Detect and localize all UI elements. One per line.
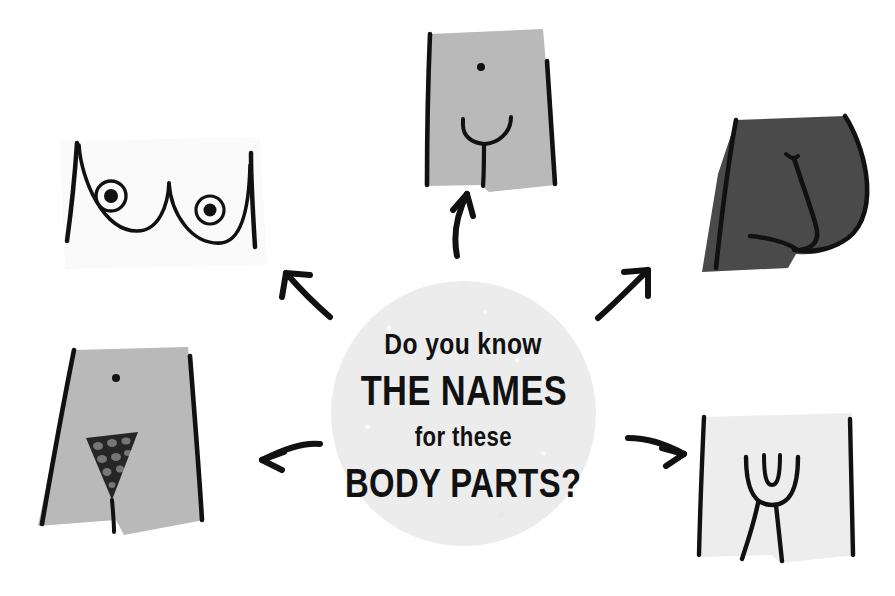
navel-dot	[112, 374, 120, 382]
arrow-to-vulva	[622, 424, 700, 472]
pelvis-cleft-line	[112, 500, 114, 532]
arrow-to-buttocks	[588, 248, 673, 326]
badge-line-2: THE NAMES	[360, 370, 567, 412]
arrow-head	[662, 448, 684, 466]
badge-line-3: for these	[415, 424, 512, 451]
arrow-to-pubic-hair-pelvis	[248, 432, 328, 480]
penis-torso-panel-background	[427, 29, 556, 192]
arrow-to-penis-torso	[443, 182, 493, 260]
illustration-vulva	[686, 405, 866, 570]
arrow-shaft	[598, 270, 648, 318]
right-nipple-icon	[196, 196, 224, 224]
arrow-shaft	[286, 273, 330, 317]
breasts-panel-background	[60, 137, 267, 269]
penis-shaft-line	[483, 144, 484, 186]
badge-line-1: Do you know	[385, 329, 543, 359]
navel-dot	[477, 63, 485, 71]
left-nipple-icon	[96, 181, 126, 211]
illustration-breasts	[55, 135, 270, 275]
illustration-pubic-hair-pelvis	[28, 340, 223, 555]
arrow-head	[262, 452, 284, 470]
vulva-right-edge-line	[850, 419, 853, 555]
badge-line-4: BODY PARTS?	[345, 463, 582, 503]
center-question-badge: Do you know THE NAMES for these BODY PAR…	[331, 281, 596, 546]
arrow-to-breasts	[258, 245, 343, 325]
illustration-penis-torso	[415, 25, 570, 200]
vulva-panel-background	[698, 413, 856, 563]
infographic-canvas: Do you know THE NAMES for these BODY PAR…	[0, 0, 895, 596]
illustration-buttocks	[688, 108, 878, 273]
